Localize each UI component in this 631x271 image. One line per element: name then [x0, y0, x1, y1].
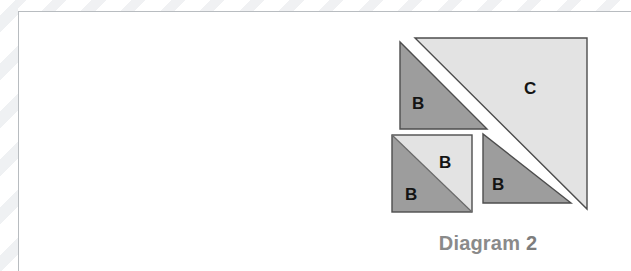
piece-b-square-unit — [388, 131, 478, 217]
figure-caption: Diagram 2 — [388, 232, 588, 255]
piece-label-c-large: C — [524, 80, 536, 97]
piece-b-top-left — [396, 38, 492, 134]
piece-label-b-square-upper: B — [439, 154, 451, 171]
piece-b-right — [479, 130, 585, 210]
piece-label-b-square-lower: B — [405, 186, 417, 203]
figure-caption-number: 2 — [526, 232, 537, 254]
piece-label-b-right: B — [492, 176, 504, 193]
figure-caption-text: Diagram — [439, 232, 520, 254]
paper-texture-left-edge — [0, 0, 18, 271]
diagram-page: B C B B B Diagram 2 — [0, 0, 631, 271]
piece-label-b-top-left: B — [412, 95, 424, 112]
